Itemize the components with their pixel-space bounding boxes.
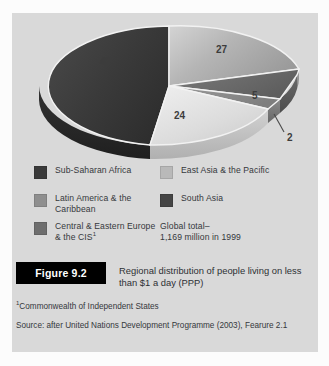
figure-root: 42 27 5 2 24 Sub-Saharan Africa Latin Am… xyxy=(0,0,329,366)
slice-value-latin-america-caribbean: 2 xyxy=(287,132,293,143)
legend-swatch-east-asia-pacific xyxy=(160,166,173,179)
legend-label-east-asia-pacific: East Asia & the Pacific xyxy=(181,165,269,176)
legend-global-total: Global total– 1,169 million in 1999 xyxy=(160,221,310,243)
legend-swatch-south-asia xyxy=(160,194,173,207)
figure-footnote: 1Commonwealth of Independent States xyxy=(16,301,159,312)
figure-panel: 42 27 5 2 24 Sub-Saharan Africa Latin Am… xyxy=(12,13,318,352)
legend-item-south-asia: South Asia xyxy=(160,193,310,215)
leader-line-latin-america xyxy=(274,114,284,132)
slice-value-sub-saharan-africa: 42 xyxy=(100,56,112,67)
legend-swatch-latin-america-caribbean xyxy=(34,194,47,207)
legend-label-sub-saharan-africa: Sub-Saharan Africa xyxy=(55,165,131,176)
figure-caption-block: Figure 9.2 Regional distribution of peop… xyxy=(12,256,318,352)
slice-value-south-asia: 5 xyxy=(252,90,258,101)
pie-chart: 42 27 5 2 24 xyxy=(12,13,318,165)
legend-item-east-asia-pacific: East Asia & the Pacific xyxy=(160,165,310,187)
legend-label-central-eastern-europe-cis-text: Central & Eastern Europe & the CIS xyxy=(55,221,155,242)
slice-value-east-asia-pacific: 27 xyxy=(216,44,228,55)
chart-legend: Sub-Saharan Africa Latin America & the C… xyxy=(12,165,318,257)
pie-chart-svg: 42 27 5 2 24 xyxy=(12,13,318,165)
slice-value-central-eastern-europe-cis: 24 xyxy=(174,110,186,121)
legend-swatch-sub-saharan-africa xyxy=(34,166,47,179)
legend-footnote-marker: 1 xyxy=(93,231,96,237)
legend-swatch-central-eastern-europe-cis xyxy=(34,222,47,235)
caption-row: Figure 9.2 Regional distribution of peop… xyxy=(16,262,305,289)
figure-caption-text: Regional distribution of people living o… xyxy=(119,265,305,289)
figure-source: Source: after United Nations Development… xyxy=(16,320,287,331)
legend-label-central-eastern-europe-cis: Central & Eastern Europe & the CIS1 xyxy=(55,221,163,242)
legend-label-south-asia: South Asia xyxy=(181,193,223,204)
legend-label-latin-america-caribbean: Latin America & the Caribbean xyxy=(55,193,163,214)
legend-global-total-line1: Global total– xyxy=(160,221,210,231)
figure-number-tag: Figure 9.2 xyxy=(16,262,106,284)
legend-global-total-text: Global total– 1,169 million in 1999 xyxy=(160,221,241,242)
figure-footnote-text: Commonwealth of Independent States xyxy=(19,302,158,311)
legend-global-total-line2: 1,169 million in 1999 xyxy=(160,232,241,242)
legend-column-right: East Asia & the Pacific South Asia Globa… xyxy=(160,165,310,249)
